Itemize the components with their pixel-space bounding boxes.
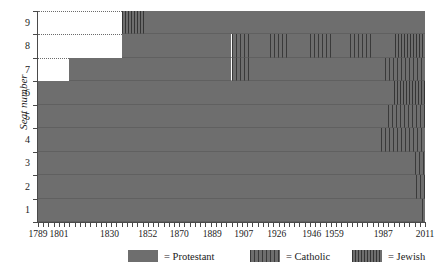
x-tick-mark	[75, 223, 76, 227]
seat-segment	[232, 34, 251, 57]
y-tick-label: 9	[16, 17, 30, 28]
x-tick-mark	[378, 223, 379, 227]
x-tick-mark	[59, 223, 60, 227]
seat-segment	[350, 34, 371, 57]
empty-seat-guide	[38, 58, 69, 59]
x-tick-mark	[216, 223, 217, 227]
x-tick-mark	[64, 223, 65, 227]
x-tick-mark	[284, 223, 285, 227]
plot-area	[38, 11, 425, 222]
x-tick-mark	[69, 223, 70, 227]
x-tick-mark	[388, 223, 389, 227]
seat-segment	[385, 58, 425, 81]
x-tick-mark	[80, 223, 81, 227]
x-tick-mark	[373, 223, 374, 227]
chart-figure: Seat number 123456789 178918011830185218…	[0, 0, 442, 275]
y-tick-label: 6	[16, 87, 30, 98]
x-tick-mark	[232, 223, 233, 227]
x-tick-mark	[336, 223, 337, 227]
seat-segment	[146, 11, 425, 34]
y-tick-label: 8	[16, 40, 30, 51]
x-tick-mark	[137, 223, 138, 227]
seat-segment	[395, 34, 425, 57]
x-tick-mark	[205, 223, 206, 227]
x-tick-mark	[425, 223, 426, 227]
seat-segment	[289, 34, 310, 57]
seat-segment	[38, 105, 388, 128]
x-tick-mark	[85, 223, 86, 227]
x-tick-mark	[252, 223, 253, 227]
x-tick-mark	[179, 223, 180, 227]
plot-top-guide	[38, 11, 122, 12]
x-tick-label: 1987	[363, 229, 403, 239]
jewish-swatch	[352, 250, 382, 262]
empty-seat-guide	[38, 34, 122, 35]
seat-segment	[381, 128, 425, 151]
seat-segment	[38, 175, 416, 198]
seat-segment	[394, 81, 425, 104]
x-tick-mark	[111, 223, 112, 227]
seat-segment	[331, 34, 350, 57]
legend-item: = Jewish	[352, 248, 425, 264]
seat-row-divider	[38, 221, 425, 222]
x-tick-mark	[221, 223, 222, 227]
seat-segment	[416, 175, 425, 198]
seat-segment	[232, 58, 253, 81]
seat-segment	[251, 34, 270, 57]
x-tick-mark	[116, 223, 117, 227]
y-tick-label: 3	[16, 157, 30, 168]
x-tick-mark	[399, 223, 400, 227]
seat-segment	[122, 11, 146, 34]
x-tick-mark	[106, 223, 107, 227]
seat-segment	[38, 152, 415, 175]
x-tick-label: 1959	[314, 229, 354, 239]
x-tick-mark	[347, 223, 348, 227]
x-tick-mark	[122, 223, 123, 227]
protestant-swatch	[128, 250, 158, 262]
x-tick-mark	[90, 223, 91, 227]
x-tick-mark	[195, 223, 196, 227]
legend-item: = Catholic	[250, 248, 330, 264]
x-tick-mark	[143, 223, 144, 227]
x-tick-mark	[279, 223, 280, 227]
x-tick-mark	[352, 223, 353, 227]
x-tick-mark	[200, 223, 201, 227]
x-tick-mark	[184, 223, 185, 227]
x-tick-mark	[164, 223, 165, 227]
legend-label: = Jewish	[388, 251, 425, 262]
x-tick-mark	[367, 223, 368, 227]
seat-segment	[371, 34, 395, 57]
x-tick-mark	[169, 223, 170, 227]
plot-clip	[38, 11, 425, 222]
x-tick-mark	[299, 223, 300, 227]
legend-label: = Catholic	[286, 251, 330, 262]
x-tick-mark	[226, 223, 227, 227]
x-tick-label: 1830	[89, 229, 129, 239]
x-tick-mark	[38, 223, 39, 227]
x-tick-mark	[394, 223, 395, 227]
x-tick-mark	[268, 223, 269, 227]
x-tick-mark	[127, 223, 128, 227]
x-tick-mark	[341, 223, 342, 227]
x-tick-mark	[362, 223, 363, 227]
x-tick-mark	[331, 223, 332, 227]
x-tick-mark	[420, 223, 421, 227]
seat-segment	[422, 199, 425, 222]
x-tick-mark	[415, 223, 416, 227]
seat-segment	[388, 105, 425, 128]
x-tick-mark	[305, 223, 306, 227]
x-tick-mark	[43, 223, 44, 227]
x-tick-mark	[96, 223, 97, 227]
x-tick-mark	[404, 223, 405, 227]
x-tick-mark	[320, 223, 321, 227]
x-tick-mark	[237, 223, 238, 227]
x-tick-mark	[310, 223, 311, 227]
catholic-swatch	[250, 250, 280, 262]
seat-segment	[122, 34, 232, 57]
seat-segment	[69, 58, 231, 81]
x-tick-mark	[357, 223, 358, 227]
y-tick-label: 5	[16, 111, 30, 122]
y-tick-label: 4	[16, 134, 30, 145]
x-tick-mark	[48, 223, 49, 227]
x-tick-mark	[132, 223, 133, 227]
